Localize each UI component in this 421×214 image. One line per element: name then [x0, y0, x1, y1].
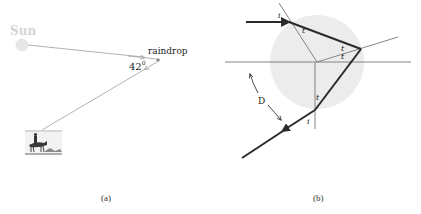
deviation-label: D [258, 96, 265, 106]
raindrop-label: raindrop [148, 46, 188, 56]
observer-image [25, 130, 62, 155]
raindrop-dot [156, 58, 160, 62]
caption-b: (b) [313, 193, 324, 203]
angle-i-top: i [278, 11, 281, 20]
panel-a: Sun raindrop 420 (a) [10, 24, 188, 203]
deviation-arrow-down [268, 105, 281, 120]
caption-a: (a) [101, 193, 111, 203]
sun-icon [16, 39, 29, 52]
sun-label: Sun [10, 24, 36, 38]
diagram-svg: Sun raindrop 420 (a) [0, 0, 421, 214]
deviation-arrow-up [250, 74, 258, 93]
rainbow-diagram: Sun raindrop 420 (a) [0, 0, 421, 214]
angle-i-bottom: i [307, 117, 310, 126]
rainbow-ray [42, 69, 146, 131]
panel-b: i t t t t i D (b) [225, 3, 411, 203]
sunlight-ray [28, 45, 143, 57]
outgoing-ray [284, 110, 315, 130]
